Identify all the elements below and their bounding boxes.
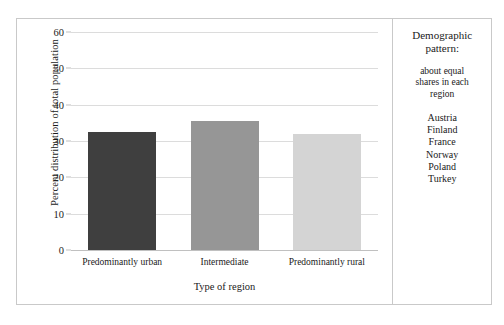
country-item: Norway [398,149,486,161]
annotation-body-line1: about equal [398,66,486,77]
x-tick-label: Intermediate [200,257,248,267]
bars-group: Predominantly urbanIntermediatePredomina… [71,32,378,250]
bar [88,132,156,250]
annotation-body-line2: shares in each [398,77,486,88]
annotation-heading-line1: Demographic [398,29,486,42]
annotation-panel: Demographic pattern: about equal shares … [392,19,491,304]
figure-container: Percent distribution of total population… [16,18,492,305]
country-item: Turkey [398,173,486,185]
y-tick-label: 30 [54,136,65,147]
plot-area: 0102030405060 Predominantly urbanInterme… [71,32,378,250]
annotation-body: about equal shares in each region [398,66,486,100]
country-item: Austria [398,112,486,124]
y-tick-label: 40 [54,99,65,110]
y-tick-label: 50 [54,63,65,74]
bar [191,121,259,250]
x-tick-label: Predominantly urban [82,257,162,267]
country-item: France [398,136,486,148]
country-item: Finland [398,124,486,136]
country-list: AustriaFinlandFranceNorwayPolandTurkey [398,112,486,185]
y-tick-label: 10 [54,208,65,219]
gridline [71,250,378,251]
annotation-heading: Demographic pattern: [398,29,486,55]
annotation-body-line3: region [398,89,486,100]
country-item: Poland [398,161,486,173]
y-axis-title: Percent distribution of total population [49,23,60,223]
x-axis-title: Type of region [71,281,378,292]
y-tick-label: 20 [54,172,65,183]
bar [293,134,361,250]
y-tick-label: 0 [59,245,64,256]
x-tick-label: Predominantly rural [289,257,365,267]
chart-pane: Percent distribution of total population… [17,19,392,304]
y-tick-label: 60 [54,27,65,38]
annotation-heading-line2: pattern: [398,42,486,55]
